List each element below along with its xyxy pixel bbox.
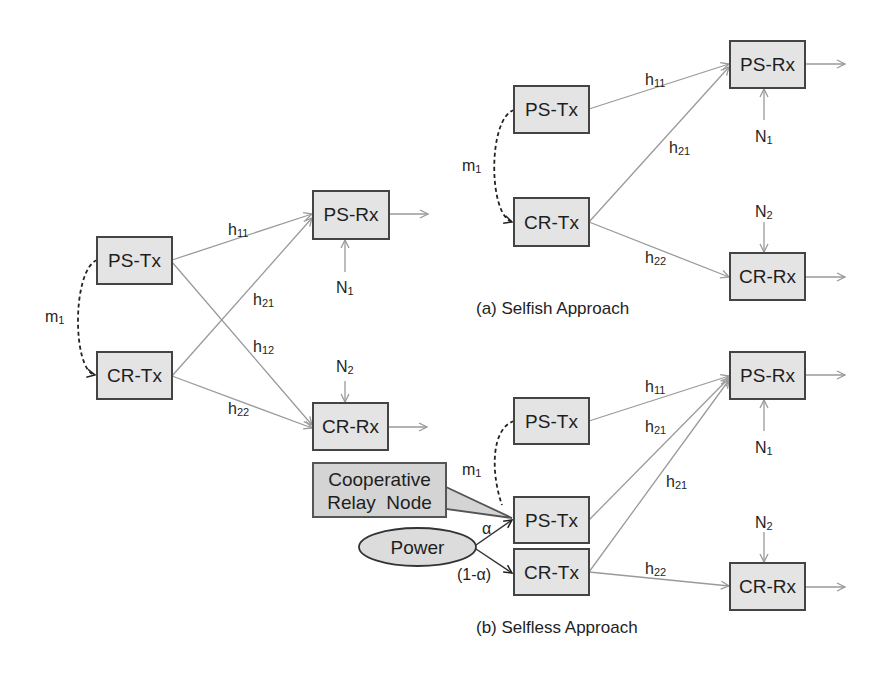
label-h11: h11: [228, 221, 248, 239]
selfless-panel: Cooperative Relay Node Power α (1-α) PS-…: [313, 352, 845, 637]
link-h21-cr: [589, 380, 729, 572]
node-ps-tx: PS-Tx: [514, 86, 589, 133]
node-label: PS-Rx: [324, 204, 379, 225]
power-source: Power α (1-α): [359, 520, 512, 583]
node-label: PS-Tx: [525, 99, 578, 120]
label-h11: h11: [645, 71, 665, 89]
label-n1: N1: [755, 439, 773, 457]
label-n2: N2: [755, 203, 773, 221]
node-cr-rx: CR-Rx: [730, 563, 805, 610]
cognitive-radio-diagram: PS-Tx CR-Tx PS-Rx CR-Rx h11 h21 h12 h22 …: [0, 0, 884, 673]
node-label: CR-Tx: [107, 365, 162, 386]
node-cr-tx: CR-Tx: [97, 352, 172, 399]
link-h12: [172, 262, 312, 425]
link-m1-dashed: [494, 110, 514, 222]
one-minus-alpha-label: (1-α): [457, 566, 491, 583]
node-label: CR-Rx: [322, 416, 379, 437]
link-h21: [172, 218, 312, 376]
label-n1: N1: [336, 279, 354, 297]
node-cr-rx: CR-Rx: [730, 253, 805, 300]
node-ps-tx: PS-Tx: [514, 398, 589, 444]
label-n1: N1: [755, 128, 773, 146]
label-h21: h21: [253, 291, 274, 309]
label-h22: h22: [228, 400, 249, 418]
node-label: CR-Rx: [739, 576, 796, 597]
label-n2: N2: [336, 358, 354, 376]
label-h12: h12: [253, 338, 274, 356]
node-label: PS-Tx: [525, 411, 578, 432]
node-label: PS-Tx: [525, 510, 578, 531]
node-label: CR-Tx: [524, 562, 579, 583]
label-h21: h21: [669, 139, 690, 157]
node-label: CR-Tx: [524, 212, 579, 233]
label-n2: N2: [755, 514, 773, 532]
label-m1: m1: [45, 308, 64, 326]
link-m1-dashed: [78, 260, 97, 375]
node-cr-tx: CR-Tx: [514, 549, 589, 595]
link-h22: [589, 222, 729, 277]
link-h21: [589, 67, 729, 222]
node-ps-rx: PS-Rx: [313, 191, 389, 239]
label-h21-relay: h21: [645, 418, 666, 436]
link-m1-dashed: [495, 421, 514, 505]
label-h22: h22: [645, 560, 666, 578]
node-label: PS-Tx: [108, 250, 161, 271]
base-panel: PS-Tx CR-Tx PS-Rx CR-Rx h11 h21 h12 h22 …: [45, 191, 428, 450]
node-ps-rx: PS-Rx: [730, 41, 805, 88]
caption-selfish: (a) Selfish Approach: [476, 299, 629, 318]
link-h21-relay: [589, 378, 729, 520]
callout-line-2: Relay Node: [327, 492, 432, 513]
label-m1: m1: [462, 157, 481, 175]
cooperative-relay-callout: Cooperative Relay Node: [313, 463, 512, 518]
node-ps-tx: PS-Tx: [97, 237, 172, 284]
node-label: CR-Rx: [739, 266, 796, 287]
node-ps-rx: PS-Rx: [730, 352, 805, 399]
node-label: PS-Rx: [740, 54, 795, 75]
power-label: Power: [391, 537, 446, 558]
link-h22: [172, 376, 312, 428]
node-relay-ps-tx: PS-Tx: [514, 497, 589, 543]
label-h11: h11: [645, 378, 665, 396]
caption-selfless: (b) Selfless Approach: [476, 618, 638, 637]
alpha-label: α: [482, 520, 491, 537]
node-label: PS-Rx: [740, 365, 795, 386]
node-cr-tx: CR-Tx: [514, 198, 589, 246]
label-h21-cr: h21: [666, 473, 687, 491]
selfish-panel: PS-Tx CR-Tx PS-Rx CR-Rx h11 h21 h22 m1 N…: [462, 41, 845, 318]
node-cr-rx: CR-Rx: [313, 403, 388, 450]
callout-line-1: Cooperative: [328, 469, 430, 490]
label-m1: m1: [462, 461, 481, 479]
